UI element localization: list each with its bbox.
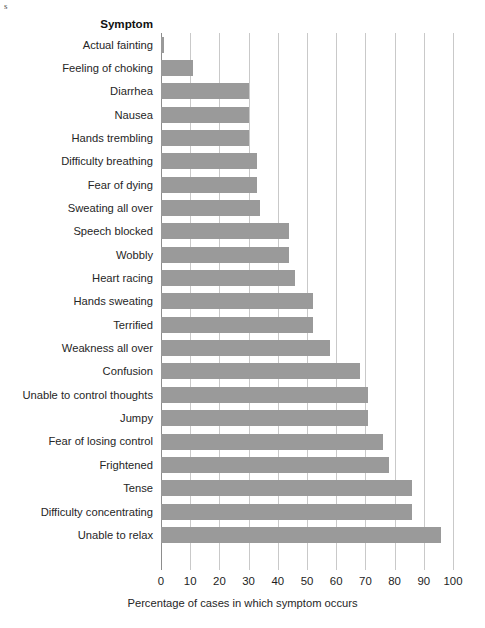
bar-row	[161, 56, 453, 79]
bar-row	[161, 173, 453, 196]
bar	[161, 200, 260, 216]
bar-row	[161, 453, 453, 476]
category-label: Sweating all over	[0, 202, 153, 214]
category-label: Hands trembling	[0, 132, 153, 144]
gridline-100	[453, 33, 454, 570]
bar	[161, 363, 360, 379]
category-label: Wobbly	[0, 249, 153, 261]
category-label: Speech blocked	[0, 225, 153, 237]
bar-row	[161, 196, 453, 219]
bar	[161, 504, 412, 520]
category-label: Confusion	[0, 365, 153, 377]
bar-row	[161, 407, 453, 430]
category-label: Diarrhea	[0, 85, 153, 97]
bar-row	[161, 383, 453, 406]
category-label: Jumpy	[0, 412, 153, 424]
bar	[161, 410, 368, 426]
category-label: Terrified	[0, 319, 153, 331]
bar-row	[161, 126, 453, 149]
category-label: Actual fainting	[0, 39, 153, 51]
category-label: Feeling of choking	[0, 62, 153, 74]
value-tick-label: 0	[158, 574, 164, 588]
bar	[161, 153, 257, 169]
category-label: Fear of dying	[0, 179, 153, 191]
bar-row	[161, 80, 453, 103]
value-tick-label: 70	[359, 574, 372, 588]
bar-row	[161, 500, 453, 523]
bar	[161, 387, 368, 403]
bar	[161, 293, 313, 309]
bar-row	[161, 150, 453, 173]
category-label: Difficulty breathing	[0, 155, 153, 167]
bar-row	[161, 523, 453, 546]
value-tick-label: 80	[388, 574, 401, 588]
bar	[161, 270, 295, 286]
value-tick-label: 40	[271, 574, 284, 588]
bar	[161, 223, 289, 239]
bar-row	[161, 430, 453, 453]
bar	[161, 130, 249, 146]
category-label: Unable to control thoughts	[0, 389, 153, 401]
bar-row	[161, 243, 453, 266]
bar-row	[161, 267, 453, 290]
bar	[161, 480, 412, 496]
category-label: Heart racing	[0, 272, 153, 284]
bar-chart-figure: Symptom Actual faintingFeeling of chokin…	[0, 0, 485, 628]
category-label: Difficulty concentrating	[0, 506, 153, 518]
bar-row	[161, 290, 453, 313]
plot-area	[161, 33, 453, 570]
bar	[161, 457, 389, 473]
bar	[161, 340, 330, 356]
bar-row	[161, 337, 453, 360]
bar	[161, 107, 249, 123]
value-axis-title: Percentage of cases in which symptom occ…	[0, 596, 485, 610]
bar	[161, 434, 383, 450]
category-label: Nausea	[0, 109, 153, 121]
value-tick-label: 20	[213, 574, 226, 588]
bar	[161, 317, 313, 333]
category-label: Unable to relax	[0, 529, 153, 541]
bar	[161, 177, 257, 193]
bar	[161, 527, 441, 543]
bar-series	[161, 33, 453, 570]
category-axis-title: Symptom	[0, 18, 153, 30]
value-tick-label: 90	[417, 574, 430, 588]
value-tick-label: 100	[443, 574, 462, 588]
category-label: Weakness all over	[0, 342, 153, 354]
category-label: Tense	[0, 482, 153, 494]
value-tick-label: 30	[242, 574, 255, 588]
category-label: Frightened	[0, 459, 153, 471]
bar	[161, 83, 249, 99]
value-axis-ticks: 0102030405060708090100	[161, 574, 453, 590]
category-label: Fear of losing control	[0, 435, 153, 447]
category-axis: Symptom Actual faintingFeeling of chokin…	[0, 33, 153, 570]
category-label: Hands sweating	[0, 295, 153, 307]
value-tick-label: 60	[330, 574, 343, 588]
bar-row	[161, 220, 453, 243]
value-tick-label: 10	[184, 574, 197, 588]
bar-row	[161, 103, 453, 126]
bar	[161, 247, 289, 263]
bar-row	[161, 313, 453, 336]
bar-row	[161, 477, 453, 500]
bar-row	[161, 33, 453, 56]
value-tick-label: 50	[301, 574, 314, 588]
bar	[161, 37, 164, 53]
bar-row	[161, 360, 453, 383]
bar	[161, 60, 193, 76]
